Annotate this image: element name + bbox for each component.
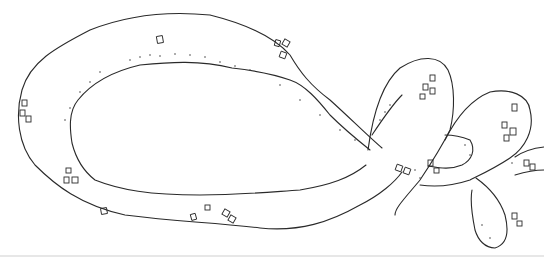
pretzel-outline xyxy=(18,13,544,248)
pretzel-illustration xyxy=(0,0,544,258)
stipple-shading xyxy=(64,53,513,239)
salt-crystals xyxy=(20,36,535,226)
